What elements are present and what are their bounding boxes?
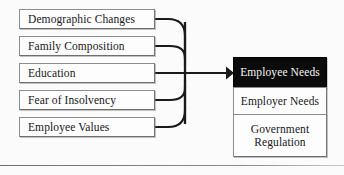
boxes-layer: Demographic Changes Family Composition E… xyxy=(0,0,344,175)
factor-box-family-composition[interactable]: Family Composition xyxy=(19,36,155,56)
diagram-root: Demographic Changes Family Composition E… xyxy=(0,0,344,175)
needs-label: Employee Needs xyxy=(240,66,320,79)
factor-label: Education xyxy=(20,67,76,79)
factor-box-employee-values[interactable]: Employee Values xyxy=(19,117,155,137)
needs-label: Government Regulation xyxy=(251,123,309,149)
factor-box-demographic-changes[interactable]: Demographic Changes xyxy=(19,9,155,29)
factor-label: Employee Values xyxy=(20,121,109,133)
needs-box-employer-needs[interactable]: Employer Needs xyxy=(233,87,327,115)
needs-box-government-regulation[interactable]: Government Regulation xyxy=(233,114,327,157)
needs-box-employee-needs[interactable]: Employee Needs xyxy=(233,57,327,88)
needs-stack: Employee Needs Employer Needs Government… xyxy=(233,57,327,157)
factor-box-education[interactable]: Education xyxy=(19,63,155,83)
page-rule-divider xyxy=(0,165,344,166)
needs-label: Employer Needs xyxy=(241,95,319,108)
factor-label: Family Composition xyxy=(20,40,125,52)
factor-label: Fear of Insolvency xyxy=(20,94,116,106)
factor-label: Demographic Changes xyxy=(20,13,135,25)
factor-box-fear-of-insolvency[interactable]: Fear of Insolvency xyxy=(19,90,155,110)
